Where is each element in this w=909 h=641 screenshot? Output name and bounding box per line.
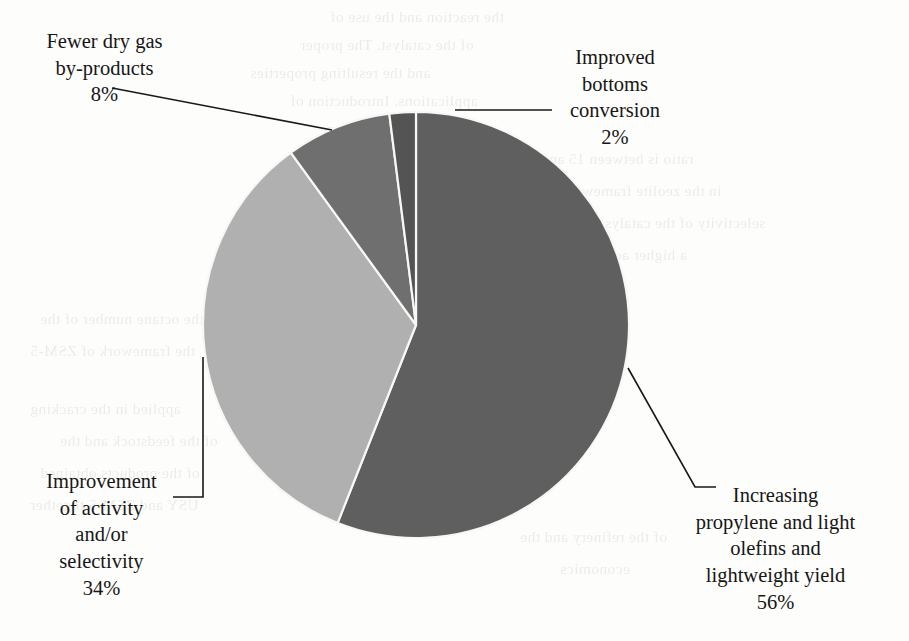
slice-label-increasing-propylene-percent: 56%: [663, 589, 888, 616]
slice-label-fewer-dry-gas-line2: by-products: [12, 55, 197, 82]
bleed-line: the reaction and the use of: [330, 8, 504, 26]
slice-label-improved-bottoms-line2: bottoms: [545, 71, 685, 98]
bleed-line: and the resulting properties: [250, 64, 430, 82]
bleed-line: of the feedstock and the: [60, 432, 218, 450]
bleed-line: the framework of ZSM-5: [30, 342, 195, 360]
slice-label-improvement-activity-line4: selectivity: [14, 548, 189, 575]
slice-label-fewer-dry-gas-percent: 8%: [12, 81, 197, 108]
slice-label-improvement-activity-line3: and/or: [14, 521, 189, 548]
slice-label-increasing-propylene-line4: lightweight yield: [663, 562, 888, 589]
slice-label-improvement-activity-percent: 34%: [14, 575, 189, 602]
slice-label-improved-bottoms: Improved bottoms conversion 2%: [545, 44, 685, 151]
bleed-line: the octane number of the: [40, 310, 204, 328]
pie-chart-figure: the reaction and the use ofof the cataly…: [0, 0, 909, 641]
slice-label-fewer-dry-gas-line1: Fewer dry gas: [12, 28, 197, 55]
bleed-line: of the catalyst. The proper: [300, 36, 474, 54]
slice-label-improvement-activity-line2: of activity: [14, 495, 189, 522]
slice-label-improved-bottoms-line3: conversion: [545, 97, 685, 124]
slice-label-improved-bottoms-line1: Improved: [545, 44, 685, 71]
pie-svg: [196, 105, 636, 545]
slice-label-increasing-propylene-line3: olefins and: [663, 535, 888, 562]
pie-slices: [203, 112, 629, 538]
slice-label-improved-bottoms-percent: 2%: [545, 124, 685, 151]
slice-label-improvement-activity-line1: Improvement: [14, 468, 189, 495]
slice-label-fewer-dry-gas: Fewer dry gas by-products 8%: [12, 28, 197, 108]
pie-graphic: [196, 105, 636, 545]
slice-label-increasing-propylene: Increasing propylene and light olefins a…: [663, 482, 888, 615]
slice-label-increasing-propylene-line1: Increasing: [663, 482, 888, 509]
leader-line-increasing-propylene: [628, 368, 716, 487]
slice-label-increasing-propylene-line2: propylene and light: [663, 509, 888, 536]
bleed-line: applied in the cracking: [30, 400, 181, 418]
slice-label-improvement-activity: Improvement of activity and/or selectivi…: [14, 468, 189, 601]
bleed-line: economics: [560, 560, 630, 578]
